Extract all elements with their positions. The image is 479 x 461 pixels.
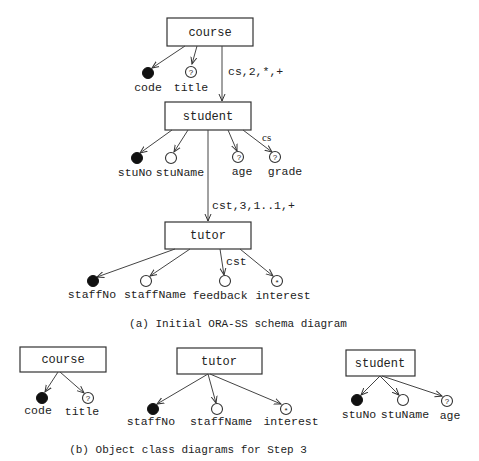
edge-student-age xyxy=(382,376,442,396)
attribute-label-title: title xyxy=(65,405,100,418)
attribute-label-stuNo: stuNo xyxy=(342,408,377,421)
edge-tutor-interest xyxy=(210,374,281,404)
class-course: course xyxy=(20,347,106,372)
caption-b: (b) Object class diagrams for Step 3 xyxy=(69,444,307,456)
object-course: course xyxy=(167,18,253,46)
attribute-label-code: code xyxy=(134,81,162,94)
attribute-marker: ? xyxy=(445,397,450,406)
attribute-marker: ? xyxy=(237,153,242,162)
attribute-label-feedback: feedback xyxy=(192,289,247,302)
relationship-label-cs: cs,2,*,+ xyxy=(228,65,283,78)
attribute-label-staffName: staffName xyxy=(124,288,186,301)
required-attribute-icon xyxy=(212,404,223,415)
object-tutor: tutor xyxy=(165,222,251,249)
attribute-marker: ? xyxy=(189,68,194,77)
key-attribute-icon xyxy=(132,153,143,164)
key-attribute-icon xyxy=(143,68,154,79)
object-student: student xyxy=(165,102,251,130)
object-label-student: student xyxy=(355,357,405,371)
edge-tutor-staffName xyxy=(208,374,216,403)
edge-tutor-staffName xyxy=(150,249,190,276)
edge-student-stuNo xyxy=(361,376,380,395)
edge-student-stuName xyxy=(174,130,188,152)
relationship-attribute-label-cst: cst xyxy=(226,255,247,268)
key-attribute-icon xyxy=(88,276,99,287)
required-attribute-icon xyxy=(398,395,409,406)
object-label-course: course xyxy=(188,26,231,40)
attribute-label-age: age xyxy=(232,165,253,178)
edge-tutor-feedback xyxy=(220,249,224,275)
attribute-label-stuName: stuName xyxy=(156,166,204,179)
edge-course-title xyxy=(60,372,84,393)
attribute-label-staffNo: staffNo xyxy=(68,288,116,301)
class-tutor: tutor xyxy=(177,348,262,374)
required-attribute-icon xyxy=(220,276,231,287)
attribute-marker: * xyxy=(275,278,278,287)
key-attribute-icon xyxy=(148,404,159,415)
edge-student-age xyxy=(228,130,237,151)
attribute-marker: * xyxy=(284,406,287,415)
diagram-b: course ? code title tutor * staffNo staf… xyxy=(20,347,460,456)
ora-ss-diagram-canvas: course ? code title cs,2,*,+ student cs … xyxy=(0,0,479,461)
object-label-tutor: tutor xyxy=(190,229,226,243)
edge-tutor-staffNo xyxy=(157,374,208,404)
attribute-label-interest: interest xyxy=(263,415,318,428)
attribute-label-interest: interest xyxy=(255,289,310,302)
attribute-marker: ? xyxy=(273,153,278,162)
key-attribute-icon xyxy=(37,393,48,404)
edge-course-code xyxy=(45,372,58,392)
key-attribute-icon xyxy=(352,395,363,406)
attribute-label-title: title xyxy=(174,81,209,94)
attribute-label-stuNo: stuNo xyxy=(118,166,153,179)
edge-tutor-staffNo xyxy=(97,249,175,277)
attribute-marker: ? xyxy=(86,394,91,403)
edge-course-code xyxy=(152,46,185,68)
required-attribute-icon xyxy=(141,276,152,287)
object-label-student: student xyxy=(183,110,233,124)
relationship-attribute-label-cs: cs xyxy=(262,131,271,143)
attribute-label-age: age xyxy=(440,409,461,422)
object-label-course: course xyxy=(41,353,84,367)
class-student: student xyxy=(346,350,415,376)
object-label-tutor: tutor xyxy=(201,355,237,369)
edge-course-title xyxy=(192,46,197,64)
attribute-label-staffNo: staffNo xyxy=(127,415,175,428)
attribute-label-code: code xyxy=(24,404,52,417)
caption-a: (a) Initial ORA-SS schema diagram xyxy=(129,318,347,330)
attribute-label-stuName: stuName xyxy=(381,408,429,421)
attribute-label-grade: grade xyxy=(268,165,303,178)
edge-student-stuNo xyxy=(140,130,172,153)
diagram-a: course ? code title cs,2,*,+ student cs … xyxy=(68,18,347,330)
attribute-label-staffName: staffName xyxy=(190,415,252,428)
required-attribute-icon xyxy=(166,153,177,164)
relationship-label-cst: cst,3,1..1,+ xyxy=(212,199,295,212)
